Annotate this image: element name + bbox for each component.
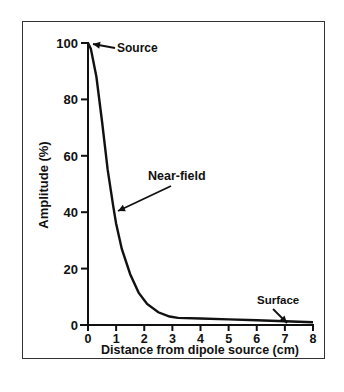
y-tick-label: 0 bbox=[71, 318, 78, 333]
chart: 020406080100012345678 SourceNear-fieldSu… bbox=[0, 0, 344, 392]
y-tick-label: 100 bbox=[56, 36, 78, 51]
y-axis-label: Amplitude (%) bbox=[36, 141, 51, 228]
y-tick-label: 80 bbox=[64, 92, 78, 107]
annotation-near-field: Near-field bbox=[148, 169, 206, 183]
y-tick-label: 40 bbox=[64, 205, 78, 220]
x-axis-label: Distance from dipole source (cm) bbox=[101, 343, 299, 357]
x-tick-label: 8 bbox=[310, 332, 317, 346]
annotation-surface: Surface bbox=[257, 294, 299, 306]
y-tick-label: 60 bbox=[64, 149, 78, 164]
annotations: SourceNear-fieldSurface bbox=[93, 41, 299, 323]
annotation-source: Source bbox=[117, 41, 158, 55]
x-tick-label: 0 bbox=[85, 332, 92, 346]
y-tick-label: 20 bbox=[64, 262, 78, 277]
